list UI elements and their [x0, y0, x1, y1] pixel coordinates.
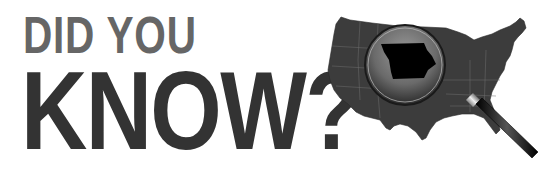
- us-map-magnifier-illustration: [310, 0, 555, 170]
- headline-line-2: KNOW?: [21, 55, 360, 167]
